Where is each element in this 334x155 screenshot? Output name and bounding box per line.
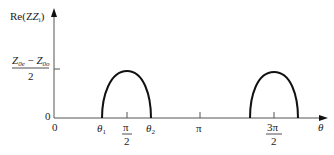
- x-tick-pi-label: π: [196, 122, 202, 134]
- re-zi-plot: Re(ZZi) Z0e − Z0o 2 0 0 θ1 π 2 θ2 π 3π 2…: [0, 0, 334, 155]
- svg-text:3π: 3π: [267, 121, 279, 133]
- x-tick-theta1-label: θ1: [97, 122, 106, 136]
- lobe-1-curve: [102, 71, 151, 118]
- y-axis-label: Re(ZZi): [10, 10, 45, 24]
- x-tick-3pi-half-label: 3π 2: [266, 121, 282, 147]
- y-axis-arrow-icon: [51, 8, 57, 17]
- y-origin-label: 0: [45, 110, 51, 122]
- svg-text:2: 2: [271, 135, 277, 147]
- svg-text:2: 2: [28, 70, 34, 82]
- x-axis-label: θ: [318, 121, 324, 133]
- svg-text:Z0e − Z0o: Z0e − Z0o: [12, 54, 50, 68]
- x-origin-label: 0: [52, 121, 58, 133]
- svg-text:π: π: [123, 121, 129, 133]
- x-tick-pi-half-label: π 2: [122, 121, 132, 147]
- svg-text:2: 2: [124, 135, 130, 147]
- y-tick-top-label: Z0e − Z0o 2: [12, 54, 50, 82]
- lobe-2-curve: [250, 72, 298, 118]
- x-tick-theta2-label: θ2: [146, 122, 155, 136]
